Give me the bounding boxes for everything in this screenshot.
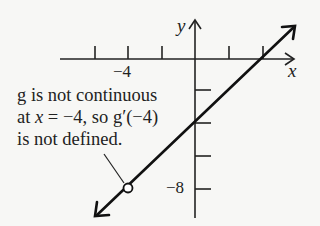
x-tick-label: −4 bbox=[113, 62, 131, 82]
y-axis-label: y bbox=[177, 15, 185, 37]
annotation-line-2: at x = −4, so g′(−4) bbox=[17, 106, 158, 128]
annotation-leader bbox=[104, 154, 124, 183]
x-axis-label: x bbox=[288, 60, 296, 82]
annotation-text: g is not continuous at x = −4, so g′(−4)… bbox=[17, 84, 158, 150]
annotation-var: x bbox=[35, 107, 43, 127]
annotation-at: at bbox=[17, 107, 35, 127]
annotation-line-1: g is not continuous bbox=[17, 84, 158, 106]
open-circle-discontinuity bbox=[124, 184, 133, 193]
y-tick-label: −8 bbox=[166, 178, 184, 198]
annotation-line-3: is not defined. bbox=[17, 128, 158, 150]
annotation-rest: = −4, so g′(−4) bbox=[43, 107, 158, 127]
